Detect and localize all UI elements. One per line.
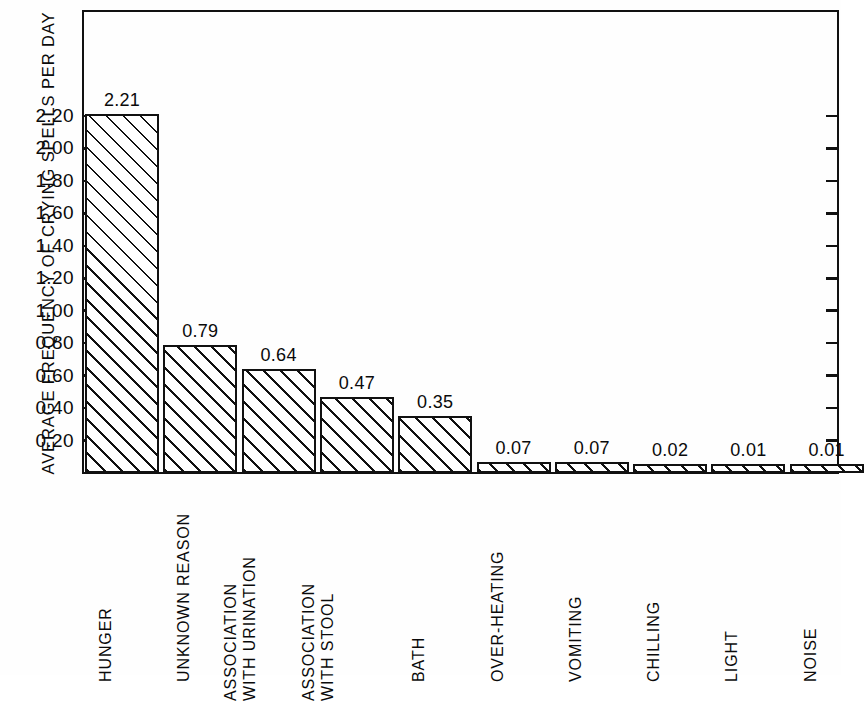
category-label: ASSOCIATIONWITH STOOL (299, 583, 337, 701)
category-label: CHILLING (644, 601, 663, 682)
bar-value-label: 0.79 (182, 321, 218, 342)
category-label: VOMITING (566, 596, 585, 682)
bar (85, 114, 159, 473)
category-label: UNKNOWN REASON (174, 513, 193, 682)
category-label: LIGHT (722, 630, 741, 682)
bar-value-label: 0.02 (652, 440, 688, 461)
bar (398, 416, 472, 473)
bar-value-label: 0.01 (730, 440, 766, 461)
bar-value-label: 0.01 (809, 440, 845, 461)
category-label: HUNGER (96, 607, 115, 682)
category-label-line: ASSOCIATION (300, 583, 317, 701)
category-label-line: WITH URINATION (240, 556, 259, 701)
bar-value-label: 0.35 (417, 392, 453, 413)
category-label-line: CHILLING (645, 601, 662, 682)
bar (711, 464, 785, 473)
category-label: ASSOCIATIONWITH URINATION (221, 556, 259, 701)
bar (477, 462, 551, 473)
bar (790, 464, 864, 473)
category-label-line: LIGHT (723, 630, 740, 682)
category-label-line: UNKNOWN REASON (175, 513, 192, 682)
category-label-line: OVER-HEATING (489, 551, 506, 682)
bar (163, 345, 237, 473)
bar (555, 462, 629, 473)
category-label: BATH (409, 637, 428, 682)
category-label-line: HUNGER (97, 607, 114, 682)
category-label: NOISE (801, 628, 820, 682)
bar (633, 464, 707, 473)
bar-value-label: 0.07 (495, 438, 531, 459)
bar-value-label: 0.07 (574, 438, 610, 459)
category-label-line: BATH (410, 637, 427, 682)
bar-value-label: 0.64 (260, 345, 296, 366)
category-label-line: ASSOCIATION (222, 583, 239, 701)
category-label-line: NOISE (802, 628, 819, 682)
bar (320, 397, 394, 473)
bar (242, 369, 316, 473)
category-label-line: WITH STOOL (318, 583, 337, 701)
category-label: OVER-HEATING (488, 551, 507, 682)
bar-value-label: 2.21 (104, 90, 140, 111)
bar-value-label: 0.47 (339, 373, 375, 394)
category-label-line: VOMITING (567, 596, 584, 682)
